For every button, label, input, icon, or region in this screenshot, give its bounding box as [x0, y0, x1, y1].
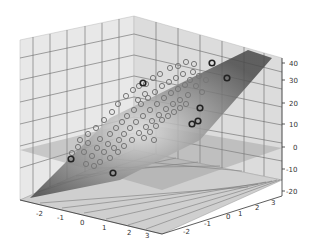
y-tick-label: 0 — [226, 213, 230, 221]
z-tick-label: -10 — [286, 166, 297, 174]
x-tick-label: 2 — [127, 229, 131, 237]
z-axis-ticks — [282, 63, 285, 191]
y-tick-label: -2 — [183, 228, 190, 236]
z-tick-label: 40 — [289, 60, 298, 68]
y-tick-label: 2 — [255, 204, 259, 212]
y-tick-label: 3 — [271, 199, 275, 207]
x-tick-label: 3 — [145, 232, 149, 240]
z-tick-label: 30 — [289, 77, 298, 85]
z-tick-label: 0 — [293, 144, 297, 152]
z-axis-labels: 40 30 20 10 0 -10 -20 — [286, 60, 298, 196]
3d-scatter-chart: 40 30 20 10 0 -10 -20 -2 -1 0 1 2 3 -2 -… — [0, 0, 312, 252]
z-tick-label: -20 — [286, 188, 297, 196]
y-tick-label: -1 — [204, 220, 211, 228]
x-tick-label: 0 — [80, 219, 84, 227]
x-tick-label: -1 — [57, 214, 64, 222]
y-tick-label: 1 — [238, 210, 242, 218]
z-tick-label: 10 — [289, 121, 298, 129]
x-tick-label: 1 — [102, 224, 106, 232]
x-tick-label: -2 — [36, 210, 43, 218]
z-tick-label: 20 — [289, 100, 298, 108]
